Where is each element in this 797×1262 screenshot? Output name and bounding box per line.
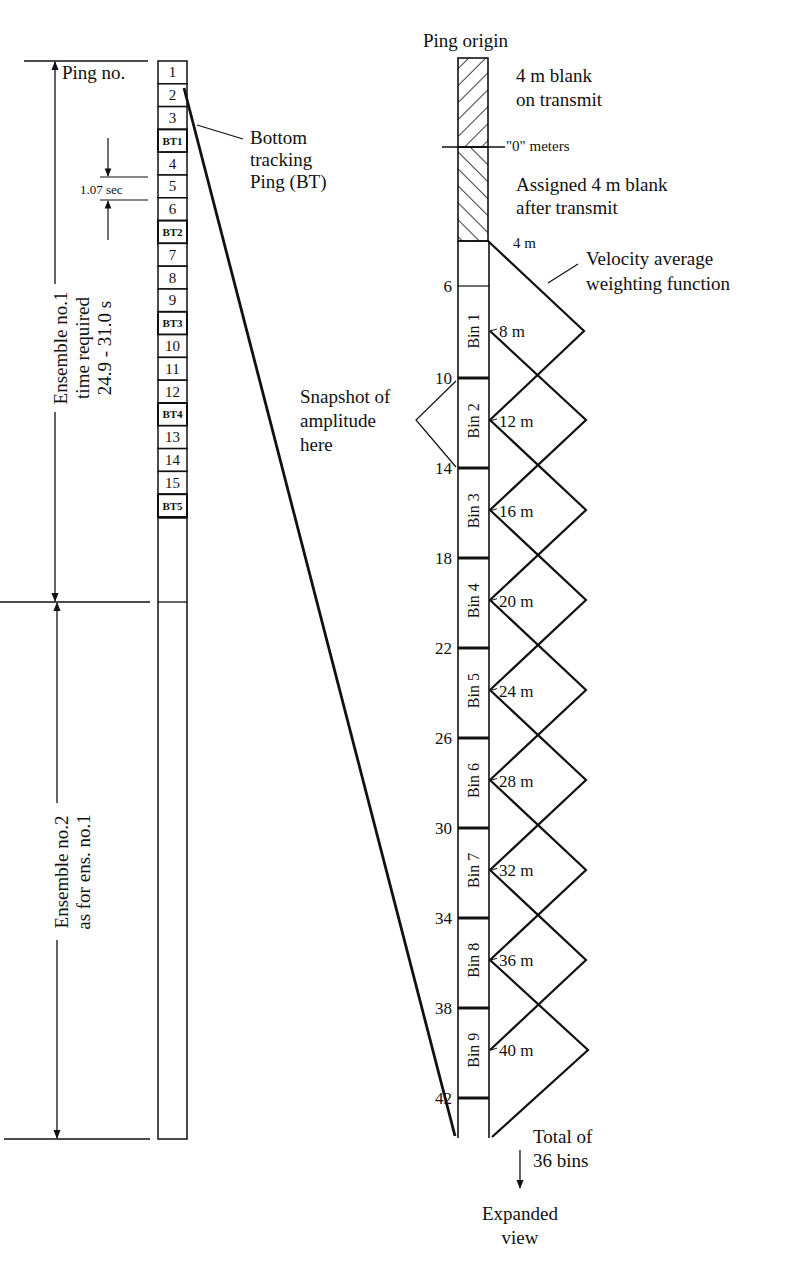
- bin-label: Bin 5: [465, 673, 482, 708]
- depth-tick: 22: [435, 639, 452, 658]
- transmit-blank-zone: [458, 58, 488, 147]
- zero-meters-label: "0" meters: [506, 138, 570, 154]
- svg-text:here: here: [300, 434, 333, 455]
- bin-boundaries: [458, 378, 489, 1098]
- depth-tick: 26: [435, 729, 452, 748]
- ping-cell-label: 8: [169, 270, 177, 286]
- depth-tick: 38: [435, 999, 452, 1018]
- depth-ticks: 6101418222630343842: [435, 277, 453, 1108]
- bin-center-label: 20 m: [499, 592, 533, 611]
- ping-cell-label: 13: [165, 429, 180, 445]
- ping-cell-label: 1: [169, 64, 177, 80]
- four-m-label: 4 m: [513, 235, 536, 251]
- depth-tick: 42: [435, 1089, 452, 1108]
- depth-tick: 34: [435, 909, 453, 928]
- depth-tick: 10: [435, 369, 452, 388]
- right-panel: Ping origin 4 m blank on transmit "0" me…: [300, 30, 731, 1248]
- ping-cell-label: 11: [165, 361, 179, 377]
- svg-text:time required: time required: [72, 297, 93, 399]
- snapshot-label: Snapshot of: [300, 386, 391, 407]
- bin-label: Bin 8: [465, 943, 482, 978]
- bin-label: Bin 2: [465, 403, 482, 438]
- ensemble2-label: Ensemble no.2 as for ens. no.1: [51, 814, 94, 930]
- ping-no-header: Ping no.: [62, 62, 125, 83]
- bin-label: Bin 1: [465, 313, 482, 348]
- ping-cell-label: 15: [165, 475, 180, 491]
- ping-cell-label: 6: [169, 201, 177, 217]
- svg-text:24.9 - 31.0 s: 24.9 - 31.0 s: [94, 301, 115, 395]
- ping-column: 123BT1456BT2789BT3101112BT4131415BT5: [158, 61, 187, 517]
- ping-cell-label: BT2: [162, 226, 183, 238]
- left-panel: Ensemble no.1 time required 24.9 - 31.0 …: [0, 61, 327, 1139]
- svg-text:tracking: tracking: [250, 149, 313, 170]
- svg-text:weighting function: weighting function: [586, 273, 731, 294]
- expansion-line: [184, 88, 455, 1136]
- ensemble1-dimension: Ensemble no.1 time required 24.9 - 31.0 …: [50, 62, 115, 601]
- expanded-view-label: Expanded: [482, 1203, 558, 1224]
- bin-center-label: 24 m: [499, 682, 533, 701]
- bin-center-label: 28 m: [499, 772, 533, 791]
- ping-cell-label: 3: [169, 110, 177, 126]
- svg-text:Ping (BT): Ping (BT): [250, 171, 327, 193]
- svg-text:as for ens. no.1: as for ens. no.1: [73, 814, 94, 930]
- bin-labels: Bin 18 mBin 212 mBin 316 mBin 420 mBin 5…: [465, 313, 533, 1067]
- bin-label: Bin 3: [465, 493, 482, 528]
- svg-text:amplitude: amplitude: [300, 410, 376, 431]
- depth-tick: 18: [435, 549, 452, 568]
- bin-center-label: 40 m: [499, 1041, 533, 1060]
- bottom-tracking-label: Bottom tracking Ping (BT): [250, 127, 327, 193]
- svg-text:view: view: [502, 1227, 539, 1248]
- ensemble1-label: Ensemble no.1 time required 24.9 - 31.0 …: [50, 292, 115, 405]
- ping-cell-label: 10: [165, 338, 180, 354]
- ping-cell-label: 2: [169, 87, 177, 103]
- ping-interval-label: 1.07 sec: [80, 182, 123, 197]
- svg-text:Ensemble no.1: Ensemble no.1: [50, 292, 71, 405]
- assigned-blank-label: Assigned 4 m blank: [516, 174, 668, 195]
- ping-cell-label: BT3: [162, 317, 183, 329]
- depth-tick: 14: [435, 459, 453, 478]
- svg-text:Bottom: Bottom: [250, 127, 307, 148]
- svg-text:after transmit: after transmit: [516, 197, 619, 218]
- bin-label: Bin 4: [465, 583, 482, 618]
- ping-cell-label: BT4: [162, 408, 183, 420]
- ping-cell-label: 12: [165, 384, 180, 400]
- ping-cell-label: BT5: [162, 500, 183, 512]
- ping-cell-label: 14: [165, 452, 181, 468]
- svg-text:on transmit: on transmit: [516, 89, 603, 110]
- adcp-ping-diagram: Ensemble no.1 time required 24.9 - 31.0 …: [0, 0, 797, 1262]
- ping-cell-label: 5: [169, 178, 177, 194]
- assigned-blank-zone: [458, 147, 488, 241]
- ensemble2-dimension: Ensemble no.2 as for ens. no.1: [51, 603, 94, 1138]
- total-bins-label: Total of: [533, 1126, 593, 1147]
- ping-cell-label: 9: [169, 292, 177, 308]
- bin-center-label: 16 m: [499, 502, 533, 521]
- weighting-function-label: Velocity average: [586, 248, 713, 269]
- depth-tick: 30: [435, 819, 452, 838]
- bin-center-label: 32 m: [499, 861, 533, 880]
- ping-cell-label: 7: [169, 247, 177, 263]
- ping-interval-dimension: 1.07 sec: [80, 138, 148, 240]
- blank-transmit-label: 4 m blank: [516, 65, 592, 86]
- depth-tick: 6: [444, 277, 453, 296]
- bin-label: Bin 9: [465, 1033, 482, 1068]
- svg-text:Ensemble no.2: Ensemble no.2: [51, 816, 72, 929]
- bin-center-label: 8 m: [499, 322, 525, 341]
- bin-center-label: 12 m: [499, 412, 533, 431]
- ping-cell-label: 4: [169, 156, 177, 172]
- bin-label: Bin 6: [465, 763, 482, 798]
- bin-label: Bin 7: [465, 853, 482, 888]
- svg-text:36 bins: 36 bins: [533, 1150, 588, 1171]
- bin-center-label: 36 m: [499, 951, 533, 970]
- ping-cell-label: BT1: [162, 135, 182, 147]
- ping-origin-title: Ping origin: [423, 30, 508, 51]
